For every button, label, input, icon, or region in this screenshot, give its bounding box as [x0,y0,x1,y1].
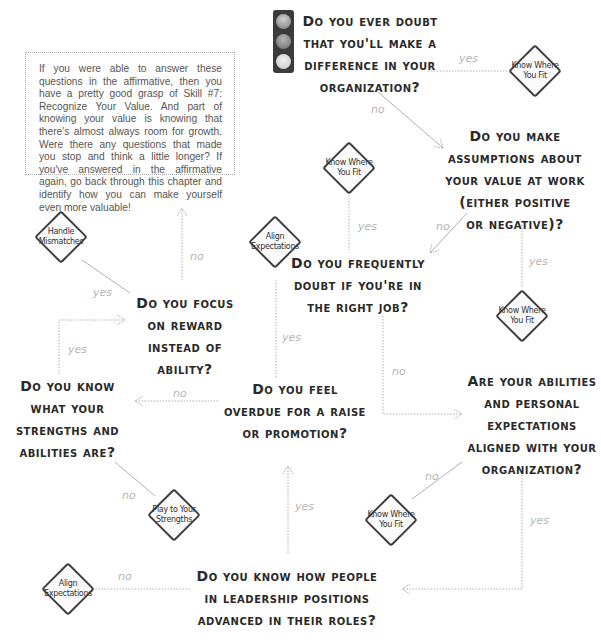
question-line: or promotion? [220,422,370,444]
question-line: strengths and [0,419,135,441]
question-line: Do you focus [130,292,240,314]
question-line: Do you know [0,375,135,397]
question-line: organization? [458,458,601,480]
outcome-know-where-you-fit: Know WhereYou Fit [497,291,547,341]
question-make-assumptions: Do you make assumptions about your value… [440,125,590,235]
question-line: your value at work [440,169,590,191]
label-no: no [436,220,450,233]
question-line: in leadership positions [182,587,392,609]
outcome-label: HandleMismatches [30,212,92,262]
question-line: and personal [458,392,601,414]
outcome-play-to-strengths: Play to YourStrengths [149,490,199,540]
label-yes: yes [529,255,548,268]
question-line: overdue for a raise [220,400,370,422]
question-line: Do you feel [220,378,370,400]
light-bottom-icon [276,54,291,69]
label-yes: yes [358,220,377,233]
outcome-label: AlignExpectations [244,217,306,267]
label-yes: yes [295,500,314,513]
question-line: ability? [130,358,240,380]
label-yes: yes [93,286,112,299]
question-know-strengths: Do you know what your strengths and abil… [0,375,135,463]
light-top-icon [276,14,291,29]
outcome-label: AlignExpectations [37,564,99,614]
traffic-light-icon [273,10,294,73]
label-yes: yes [459,52,478,65]
question-doubt-difference: Do you ever doubt that you'll make a dif… [300,10,440,98]
label-yes: yes [530,514,549,527]
question-line: what your [0,397,135,419]
question-abilities-aligned: Are your abilities and personal expectat… [458,370,601,480]
label-yes: yes [68,343,87,356]
outcome-align-expectations: AlignExpectations [43,564,93,614]
question-line: (either positive [440,191,590,213]
outcome-align-expectations: AlignExpectations [250,217,300,267]
outcome-know-where-you-fit: Know WhereYou Fit [510,46,560,96]
question-line: doubt if you're in [283,274,433,296]
question-line: that you'll make a [300,32,440,54]
outcome-label: Play to YourStrengths [143,490,205,540]
outcome-label: Know WhereYou Fit [504,46,566,96]
question-line: Do you make [440,125,590,147]
label-no: no [173,387,187,400]
question-leadership-advanced: Do you know how people in leadership pos… [182,565,392,631]
label-no: no [392,365,406,378]
question-line: organization? [300,76,440,98]
question-line: assumptions about [440,147,590,169]
summary-note: If you were able to answer these questio… [25,52,235,175]
outcome-handle-mismatches: HandleMismatches [36,212,86,262]
question-line: on reward [130,314,240,336]
question-line: Are your abilities [458,370,601,392]
outcome-label: Know WhereYou Fit [360,495,422,545]
question-line: Do you ever doubt [300,10,440,32]
question-overdue-raise: Do you feel overdue for a raise or promo… [220,378,370,444]
label-yes: yes [282,331,301,344]
question-line: expectations [458,414,601,436]
light-middle-icon [276,34,291,49]
label-no: no [190,250,204,263]
question-focus-reward: Do you focus on reward instead of abilit… [130,292,240,380]
outcome-know-where-you-fit: Know WhereYou Fit [324,143,374,193]
label-no: no [122,489,136,502]
outcome-label: Know WhereYou Fit [318,143,380,193]
question-line: advanced in their roles? [182,609,392,631]
label-no: no [425,470,439,483]
question-line: difference in your [300,54,440,76]
label-no: no [118,570,132,583]
label-no: no [371,103,385,116]
question-line: Do you know how people [182,565,392,587]
outcome-label: Know WhereYou Fit [491,291,553,341]
question-line: instead of [130,336,240,358]
question-line: aligned with your [458,436,601,458]
question-line: or negative)? [440,213,590,235]
question-line: abilities are? [0,441,135,463]
outcome-know-where-you-fit: Know WhereYou Fit [366,495,416,545]
question-line: the right job? [283,296,433,318]
